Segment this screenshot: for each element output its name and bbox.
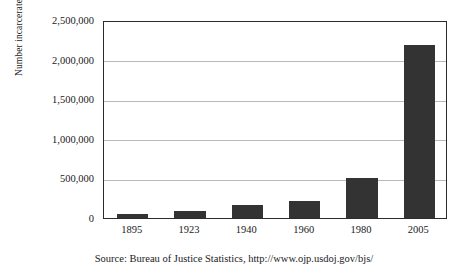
x-axis-tick-label: 1980 [332, 223, 389, 236]
bar [232, 205, 264, 218]
bar [346, 178, 378, 218]
bar [404, 45, 436, 218]
y-axis-tick-labels: 0500,0001,000,0001,500,0002,000,0002,500… [26, 0, 98, 240]
y-axis-tick-label: 500,000 [22, 173, 94, 184]
x-axis-tick-label: 1940 [218, 223, 275, 236]
x-axis-tick-labels: 189519231940196019802005 [103, 223, 447, 239]
y-axis-tick-label: 1,500,000 [22, 94, 94, 105]
plot-area [103, 21, 447, 219]
bar-chart-figure: Number incarcerated 0500,0001,000,0001,5… [0, 0, 468, 277]
y-axis-tick-label: 1,000,000 [22, 134, 94, 145]
bar [289, 201, 321, 218]
y-axis-tick-label: 0 [22, 213, 94, 224]
bar [174, 211, 206, 218]
x-axis-tick-label: 1923 [160, 223, 217, 236]
y-axis-tick-label: 2,000,000 [22, 55, 94, 66]
x-axis-tick-label: 1895 [103, 223, 160, 236]
y-axis-tick-label: 2,500,000 [22, 15, 94, 26]
x-axis-tick-label: 2005 [390, 223, 447, 236]
source-caption: Source: Bureau of Justice Statistics, ht… [0, 252, 468, 265]
bar [117, 214, 149, 218]
bars-layer [104, 22, 446, 218]
x-axis-tick-label: 1960 [275, 223, 332, 236]
